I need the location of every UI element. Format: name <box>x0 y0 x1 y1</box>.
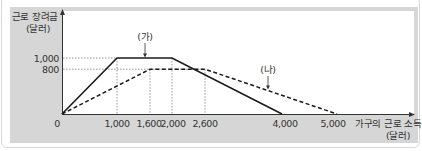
x-tick-2600: 2,600 <box>192 118 218 129</box>
series-ga-label: (가) <box>137 31 153 42</box>
x-tick-1600: 1,600 <box>136 118 162 129</box>
x-axis-unit: (달러) <box>386 130 410 141</box>
chart: (가) (나) 근로 장려금 (달러) 1,000 800 0 1,000 1,… <box>0 0 422 151</box>
x-tick-0: 0 <box>54 118 60 129</box>
y-tick-800: 800 <box>42 64 59 75</box>
x-tick-2000: 2,000 <box>160 118 186 129</box>
x-tick-1000: 1,000 <box>104 118 130 129</box>
plot-area <box>63 11 414 114</box>
y-tick-1000: 1,000 <box>34 53 60 64</box>
y-axis-unit: (달러) <box>26 23 50 34</box>
series-na-label: (나) <box>260 64 276 75</box>
x-tick-4000: 4,000 <box>272 118 298 129</box>
x-tick-5000: 5,000 <box>320 118 346 129</box>
x-axis-title: 가구의 근로 소득 <box>355 118 422 129</box>
y-axis-title: 근로 장려금 <box>12 11 59 22</box>
